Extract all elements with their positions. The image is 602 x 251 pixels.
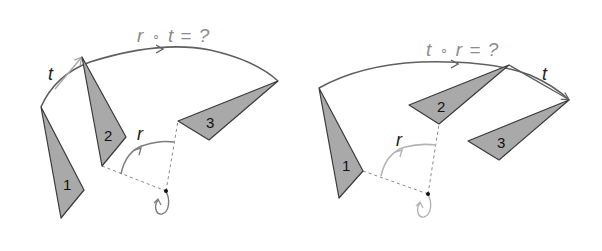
left-title-a: r xyxy=(137,25,144,46)
right-panel: t ∘ r = ? t r 1 2 3 xyxy=(319,37,569,217)
right-pivot-loop xyxy=(418,195,431,217)
right-pivot-point xyxy=(426,192,430,196)
right-dashed-line-2 xyxy=(428,124,439,194)
right-title-a: t xyxy=(426,39,432,60)
right-triangle-2-label: 2 xyxy=(437,98,445,115)
right-title: t ∘ r = ? xyxy=(426,37,499,60)
left-panel: r ∘ t = ? t r 1 2 3 xyxy=(41,23,278,218)
right-translation-arrow xyxy=(509,65,568,99)
left-title-q: ? xyxy=(199,25,210,46)
left-triangle-2 xyxy=(82,57,126,166)
left-pivot-point xyxy=(164,189,168,193)
left-triangle-2-label: 2 xyxy=(104,127,112,144)
right-title-eq: = xyxy=(469,39,480,60)
right-triangle-2 xyxy=(409,65,509,124)
left-triangle-3 xyxy=(178,81,278,140)
left-triangle-1-label: 1 xyxy=(63,176,71,193)
right-triangle-1-label: 1 xyxy=(342,157,350,174)
left-title-op: ∘ xyxy=(152,28,160,43)
left-title: r ∘ t = ? xyxy=(137,23,210,46)
right-triangle-3-label: 3 xyxy=(497,134,505,151)
right-dashed-line-1 xyxy=(363,171,428,194)
right-title-b: r xyxy=(456,39,463,60)
left-triangle-1 xyxy=(41,107,84,218)
left-r-label: r xyxy=(137,124,144,144)
left-rotation-arc-arrow xyxy=(134,148,141,155)
right-triangle-1 xyxy=(319,88,363,198)
left-dashed-line-1 xyxy=(102,166,166,191)
left-composite-arc-arrow xyxy=(156,45,163,53)
left-translation-arrow xyxy=(55,58,81,89)
composition-diagram: r ∘ t = ? t r 1 2 3 t xyxy=(0,0,602,251)
right-composite-arc-arrow xyxy=(451,60,458,68)
left-triangle-3-label: 3 xyxy=(206,114,214,131)
right-title-op: ∘ xyxy=(440,42,448,57)
left-pivot-loop xyxy=(156,192,169,214)
right-rotation-arc xyxy=(381,144,436,176)
left-pivot-loop-arrow xyxy=(154,199,161,205)
right-t-label: t xyxy=(542,64,548,84)
left-title-b: t xyxy=(168,25,174,46)
right-pivot-loop-arrow xyxy=(416,202,423,208)
left-rotation-arc xyxy=(121,141,174,174)
right-r-label: r xyxy=(396,130,403,150)
left-dashed-line-2 xyxy=(166,121,178,191)
left-t-label: t xyxy=(48,64,54,84)
left-title-eq: = xyxy=(180,25,191,46)
right-title-q: ? xyxy=(488,39,499,60)
right-triangle-3 xyxy=(468,100,569,160)
right-rotation-arc-arrow xyxy=(395,150,402,157)
